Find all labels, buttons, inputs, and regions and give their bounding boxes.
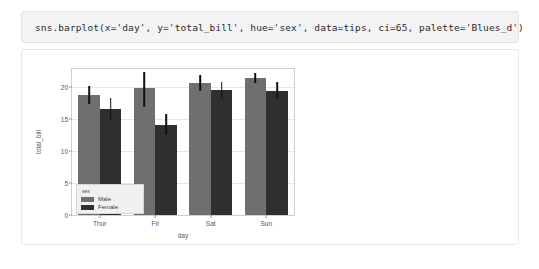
error-bar-sun-female <box>276 82 278 99</box>
error-bar-sat-female <box>221 82 223 98</box>
y-tick-label: 15 <box>61 115 68 122</box>
bar-sat-male <box>189 83 211 215</box>
bar-sat-female <box>211 90 233 216</box>
code-output-cell: total_bill sex Male Female 05101520ThurF… <box>21 49 519 245</box>
y-tick-mark <box>69 215 72 216</box>
x-axis-title: day <box>71 232 295 239</box>
error-bar-fri-female <box>165 114 167 135</box>
bar-sun-female <box>266 91 288 215</box>
y-axis-title: total_bill <box>35 130 42 154</box>
legend-item-male: Male <box>81 196 139 202</box>
legend-title: sex <box>82 188 139 194</box>
y-tick-mark <box>69 118 72 119</box>
error-bar-thur-male <box>88 86 90 104</box>
legend-label-male: Male <box>98 196 111 202</box>
legend-swatch-female <box>81 205 94 210</box>
y-tick-label: 0 <box>64 212 68 219</box>
x-tick-label-sat: Sat <box>206 220 216 227</box>
x-tick-label-fri: Fri <box>151 220 159 227</box>
y-tick-label: 10 <box>61 147 68 154</box>
legend-label-female: Female <box>98 204 118 210</box>
bar-sun-male <box>245 78 267 215</box>
y-tick-label: 5 <box>64 179 68 186</box>
error-bar-fri-male <box>144 72 146 108</box>
y-tick-mark <box>69 86 72 87</box>
error-bar-sun-male <box>255 73 257 83</box>
x-tick-label-thur: Thur <box>93 220 106 227</box>
x-tick-label-sun: Sun <box>260 220 272 227</box>
y-tick-mark <box>69 150 72 151</box>
notebook-container: sns.barplot(x='day', y='total_bill', hue… <box>0 0 539 269</box>
barplot-figure: total_bill sex Male Female 05101520ThurF… <box>30 54 350 242</box>
code-text: sns.barplot(x='day', y='total_bill', hue… <box>22 22 524 33</box>
bar-fri-female <box>155 125 177 215</box>
x-tick-mark <box>266 215 267 218</box>
legend-swatch-male <box>81 197 94 202</box>
x-tick-mark <box>99 215 100 218</box>
y-tick-label: 20 <box>61 83 68 90</box>
y-tick-mark <box>69 182 72 183</box>
chart-legend: sex Male Female <box>76 184 144 214</box>
code-input-cell[interactable]: sns.barplot(x='day', y='total_bill', hue… <box>21 11 519 43</box>
error-bar-thur-female <box>110 98 112 119</box>
legend-item-female: Female <box>81 204 139 210</box>
x-tick-mark <box>155 215 156 218</box>
error-bar-sat-male <box>199 75 201 90</box>
x-tick-mark <box>210 215 211 218</box>
plot-axes-area: sex Male Female 05101520ThurFriSatSun <box>71 68 295 216</box>
